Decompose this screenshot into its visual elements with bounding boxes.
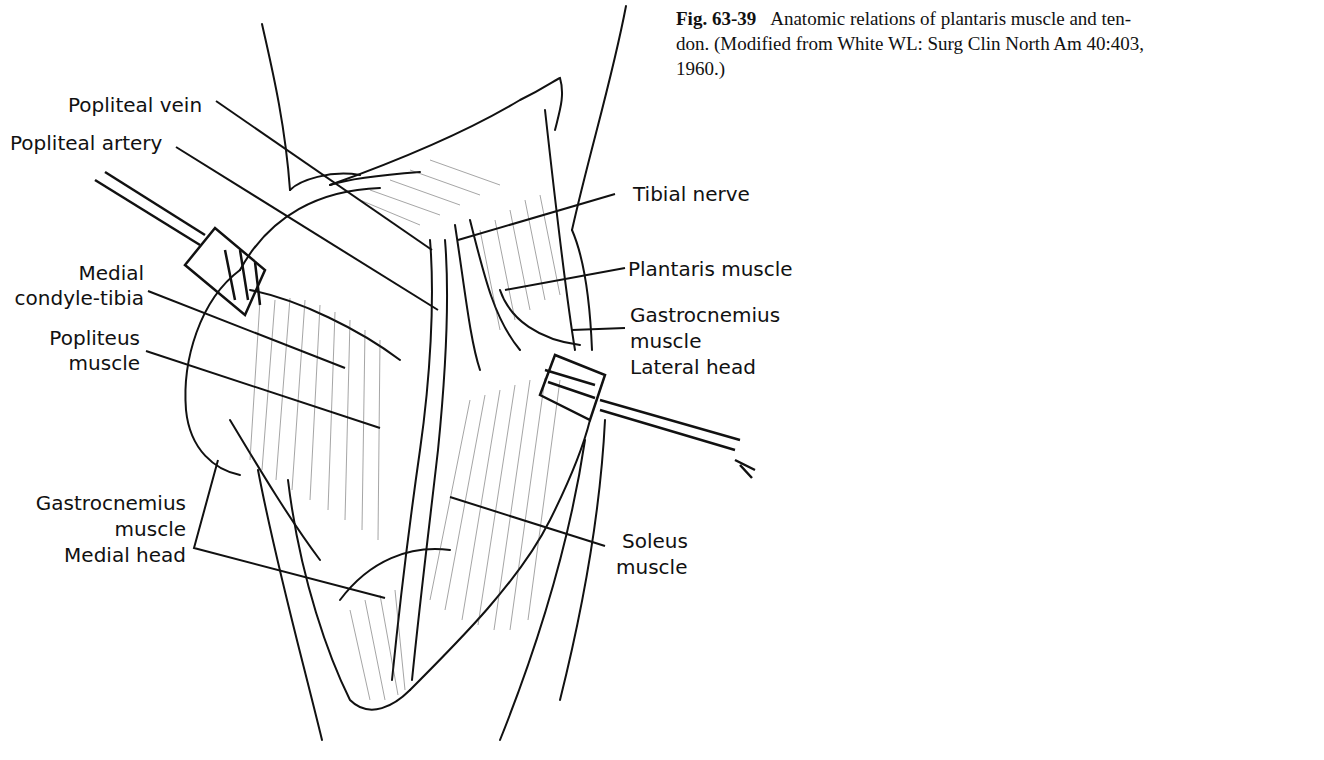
label-medial-condyle-line2: condyle-tibia [6,286,144,310]
leader-tibial-nerve [458,194,615,240]
leader-medial-condyle [148,291,345,368]
label-gastroc-medial-line3: Medial head [34,543,186,567]
caption-line2: don. (Modified from White WL: Surg Clin … [676,31,1316,56]
leader-gastroc-medial [194,460,385,598]
caption-line1: Fig. 63-39Anatomic relations of plantari… [676,6,1316,31]
label-medial-condyle-line1: Medial [72,261,144,285]
label-gastroc-medial-line1: Gastrocnemius [34,491,186,515]
label-tibial-nerve: Tibial nerve [633,182,750,206]
anatomic-figure: Popliteal vein Popliteal artery Medial c… [0,0,1324,760]
caption-text-1: Anatomic relations of plantaris muscle a… [770,8,1131,29]
leader-popliteus [146,351,380,428]
leader-popliteal-vein [216,101,432,250]
label-gastroc-lateral-line3: Lateral head [630,355,756,379]
label-gastroc-medial-line2: muscle [34,517,186,541]
label-popliteus-line1: Popliteus [48,326,140,350]
label-plantaris-muscle: Plantaris muscle [628,257,793,281]
label-popliteal-artery: Popliteal artery [10,131,162,155]
label-popliteus-line2: muscle [48,351,140,375]
figure-number: Fig. 63-39 [676,8,756,29]
label-soleus-line1: Soleus [622,529,688,553]
label-gastroc-lateral-line1: Gastrocnemius [630,303,780,327]
caption-line3: 1960.) [676,56,1316,81]
leader-gastroc-lateral [572,328,625,330]
label-soleus-line2: muscle [616,555,687,579]
figure-caption: Fig. 63-39Anatomic relations of plantari… [676,6,1316,81]
label-gastroc-lateral-line2: muscle [630,329,701,353]
label-popliteal-vein: Popliteal vein [68,93,202,117]
